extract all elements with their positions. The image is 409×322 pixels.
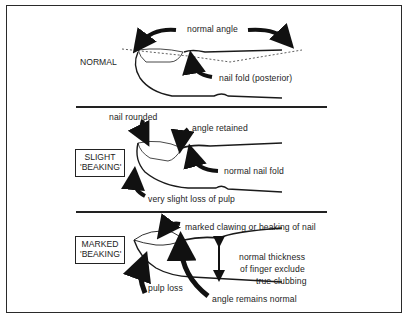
label-normal-angle: normal angle bbox=[187, 24, 238, 34]
label-true-clubbing: true clubbing bbox=[256, 276, 307, 286]
pulp-loss-arrow-slight bbox=[134, 178, 145, 196]
pulp-loss-arrow-marked bbox=[141, 265, 145, 293]
label-normal-thickness: normal thickness bbox=[239, 252, 305, 262]
beaking-arrow bbox=[164, 224, 180, 230]
label-pulp-loss: pulp loss bbox=[148, 283, 183, 293]
label-slight-pulp-loss: very slight loss of pulp bbox=[148, 194, 235, 204]
tag-slight-line2: 'BEAKING' bbox=[80, 162, 120, 172]
tag-marked-line2: 'BEAKING' bbox=[80, 249, 120, 259]
label-of-finger-exclude: of finger exclude bbox=[240, 264, 305, 274]
label-angle-remains-normal: angle remains normal bbox=[212, 294, 297, 304]
nail-fold-arrow bbox=[192, 62, 212, 77]
tag-normal: NORMAL bbox=[80, 57, 117, 67]
tag-marked-line1: MARKED bbox=[80, 239, 120, 249]
nail-rounded-arrow bbox=[142, 120, 144, 136]
label-marked-clawing: marked clawing or beaking of nail bbox=[185, 222, 316, 232]
finger-illustrations bbox=[0, 0, 409, 322]
tag-slight-beaking: SLIGHT 'BEAKING' bbox=[75, 149, 125, 177]
normal-nail-fold-arrow bbox=[192, 155, 218, 171]
normal-angle-arrow-right bbox=[248, 30, 286, 40]
label-angle-retained: angle retained bbox=[192, 123, 248, 133]
angle-retained-arrow bbox=[181, 129, 188, 142]
tag-slight-line1: SLIGHT bbox=[80, 152, 120, 162]
tag-marked-beaking: MARKED 'BEAKING' bbox=[75, 236, 125, 264]
label-normal-nail-fold: normal nail fold bbox=[224, 166, 284, 176]
label-nail-rounded: nail rounded bbox=[109, 112, 158, 122]
angle-remains-normal-arrow bbox=[181, 246, 208, 296]
label-nail-fold-posterior: nail fold (posterior) bbox=[219, 73, 292, 83]
normal-angle-arrow-left bbox=[140, 30, 176, 44]
